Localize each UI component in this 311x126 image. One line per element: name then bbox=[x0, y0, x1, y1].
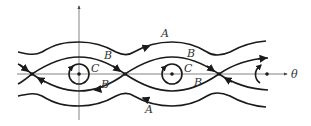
arrow-icon bbox=[258, 58, 266, 59]
label-A-bottom: A bbox=[144, 103, 153, 116]
arrow-icon bbox=[225, 78, 232, 82]
axis-label-theta: θ bbox=[291, 68, 298, 81]
arrow-icon bbox=[38, 78, 45, 82]
trajectory-A-top bbox=[18, 41, 266, 55]
center-point bbox=[170, 72, 174, 76]
arrow-icon bbox=[113, 66, 120, 71]
arrow-icon bbox=[207, 66, 214, 71]
label-B-top-1: B bbox=[103, 49, 112, 62]
center-point bbox=[77, 72, 81, 76]
label-B-top-2: B bbox=[186, 47, 195, 60]
label-B-bottom-1: B bbox=[100, 78, 109, 91]
arrow-icon bbox=[143, 98, 148, 100]
label-C-1: C bbox=[91, 62, 100, 75]
label-A-top: A bbox=[160, 27, 169, 40]
center-point bbox=[265, 72, 269, 76]
phase-portrait: A A B B B B C C θ bbox=[0, 0, 311, 126]
saddle-point bbox=[30, 72, 34, 76]
saddle-point bbox=[217, 72, 221, 76]
label-B-bottom-2: B bbox=[193, 76, 202, 89]
label-C-2: C bbox=[184, 62, 193, 75]
arrow-icon bbox=[20, 65, 28, 71]
trajectory-A-bottom bbox=[18, 93, 266, 107]
arrow-icon bbox=[164, 66, 166, 68]
saddle-point bbox=[123, 72, 127, 76]
arrow-icon bbox=[259, 65, 261, 67]
arrow-icon bbox=[71, 66, 73, 68]
